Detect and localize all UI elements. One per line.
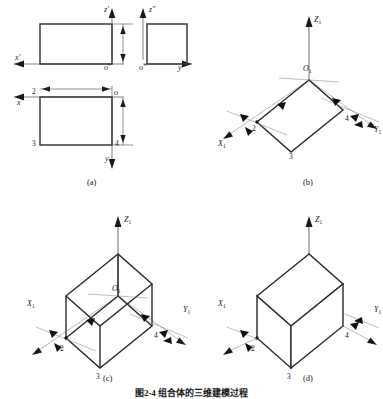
panel-c-label-z: Z1	[124, 216, 131, 224]
panel-b-label-y: Y1	[374, 126, 381, 134]
top-view-y-arrow	[109, 159, 116, 169]
panel-label-c: (c)	[103, 374, 112, 383]
panel-b-label-x: X1	[218, 140, 226, 148]
panel-a-drawing	[0, 0, 192, 196]
panel-c-x-arrow	[32, 347, 42, 355]
panel-d-drawing	[191, 196, 383, 392]
panel-c-label-origin: O1	[112, 285, 121, 293]
label-x-top-view: x	[17, 99, 21, 107]
front-view-rectangle	[40, 24, 112, 64]
panel-b-label-z: Z1	[314, 16, 321, 24]
figure-caption: 图2-4 组合体的三维建模过程	[0, 386, 383, 399]
side-view-z-arrow	[140, 8, 147, 18]
panel-c-label-x: X1	[27, 300, 35, 308]
label-vertex-3-a: 3	[32, 140, 36, 148]
top-depth-arrow-up	[120, 99, 125, 107]
label-o-double-prime: o"	[139, 64, 146, 72]
top-width-arrow-right	[102, 86, 110, 91]
panel-b-label-origin: O1	[303, 65, 312, 73]
panel-c-vertex-3: 3	[96, 373, 100, 381]
label-vertex-2-a: 2	[32, 88, 36, 96]
panel-c-vertex-2: 2	[60, 345, 64, 353]
label-vertex-4-a: 4	[115, 140, 119, 148]
panel-d-vertex-2: 2	[251, 345, 255, 353]
panel-d-z-arrow	[306, 216, 313, 227]
panel-d-y-arrow	[367, 337, 377, 345]
label-o-top-view: o	[114, 89, 118, 97]
panel-d-vertex-2-dot	[255, 336, 258, 339]
panel-d-label-z: Z1	[315, 216, 322, 224]
front-view-z-arrow	[109, 8, 116, 18]
panel-d-label-y: Y1	[374, 306, 381, 314]
panel-c-vertex-2-dot	[64, 336, 67, 339]
label-x-prime: x'	[15, 54, 20, 62]
side-view-square	[147, 24, 187, 64]
panel-d-vertex-4: 4	[345, 332, 349, 340]
top-width-arrow-left	[42, 86, 50, 91]
panel-c-constr-right	[130, 314, 188, 338]
panel-c-vertex-4: 4	[154, 332, 158, 340]
panel-b-constr-right	[321, 98, 379, 122]
label-y-top-view: y	[105, 155, 109, 163]
top-view-rectangle	[40, 97, 112, 145]
panel-c-z-arrow	[115, 216, 122, 227]
panel-c-drawing	[0, 196, 192, 392]
panel-b-vertex-4: 4	[345, 115, 349, 123]
panel-d-vertex-3: 3	[287, 373, 291, 381]
panel-b-z-arrow	[306, 16, 313, 27]
panel-b-vertex-2: 2	[252, 125, 256, 133]
label-y-double-prime: y"	[178, 64, 185, 72]
panel-b-base-parallelogram	[257, 80, 343, 152]
label-o-prime: o'	[104, 64, 110, 72]
panel-b-drawing	[191, 0, 383, 196]
panel-b-y-axis	[309, 80, 373, 126]
panel-c-label-y: Y1	[183, 306, 190, 314]
panel-label-d: (d)	[303, 374, 313, 383]
panel-b-x-arrow	[223, 131, 233, 139]
label-z-double-prime: z"	[149, 6, 155, 14]
panel-d-label-x: X1	[218, 300, 226, 308]
label-z-prime: z'	[104, 6, 109, 14]
panel-label-b: (b)	[303, 178, 313, 187]
panel-d-x-arrow	[223, 347, 233, 355]
top-depth-arrow-down	[120, 135, 125, 143]
panel-b-vertex-3: 3	[289, 153, 293, 161]
front-height-arrow-down	[120, 54, 125, 62]
panel-label-a: (a)	[87, 178, 96, 187]
front-height-arrow-up	[120, 26, 125, 34]
